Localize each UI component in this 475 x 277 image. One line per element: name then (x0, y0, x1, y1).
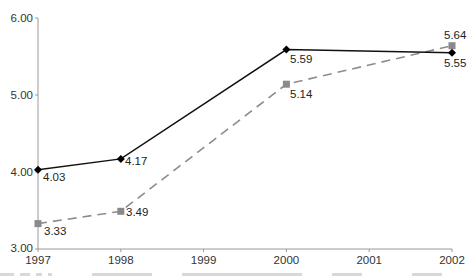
series-1-line (38, 50, 452, 170)
x-tick-label: 1997 (25, 254, 51, 266)
data-label: 5.64 (444, 29, 467, 41)
x-tick-label: 1998 (108, 254, 134, 266)
y-axis-ticks: 6.00 5.00 4.00 3.00 (11, 12, 38, 254)
x-tick-label: 2000 (274, 254, 300, 266)
diamond-marker-icon (117, 155, 125, 163)
data-label: 5.55 (444, 57, 466, 69)
x-tick-label: 2002 (439, 254, 465, 266)
y-tick-label: 4.00 (11, 166, 33, 178)
series-1: 4.03 4.17 5.59 5.55 (34, 46, 466, 183)
line-chart: 6.00 5.00 4.00 3.00 1997 1998 1999 2000 … (0, 0, 475, 277)
data-label: 3.33 (44, 225, 66, 237)
data-label: 4.17 (125, 155, 147, 167)
data-label: 5.59 (290, 53, 312, 65)
x-tick-label: 2001 (356, 254, 382, 266)
square-marker-icon (283, 81, 290, 88)
data-label: 5.14 (290, 88, 313, 100)
y-tick-label: 3.00 (11, 242, 33, 254)
diamond-marker-icon (448, 49, 456, 57)
y-tick-label: 6.00 (11, 12, 33, 24)
series-2: 3.33 3.49 5.14 5.64 (35, 29, 467, 237)
x-axis-ticks: 1997 1998 1999 2000 2001 2002 (25, 249, 465, 266)
square-marker-icon (449, 42, 456, 49)
x-tick-label: 1999 (191, 254, 217, 266)
y-tick-label: 5.00 (11, 89, 33, 101)
square-marker-icon (117, 208, 124, 215)
data-label: 4.03 (43, 171, 65, 183)
cropped-caption-fragment (0, 273, 475, 277)
data-label: 3.49 (126, 206, 148, 218)
square-marker-icon (35, 220, 42, 227)
series-2-line (38, 46, 452, 224)
